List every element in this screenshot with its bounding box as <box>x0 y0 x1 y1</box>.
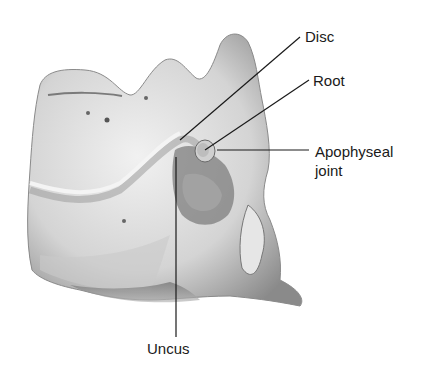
label-uncus: Uncus <box>147 340 190 357</box>
label-apophyseal: Apophyseal <box>315 143 393 160</box>
label-joint: joint <box>315 162 343 179</box>
label-disc: Disc <box>305 28 334 45</box>
label-root: Root <box>313 72 345 89</box>
vertebra-illustration <box>0 0 446 370</box>
anatomy-figure: Disc Root Apophyseal joint Uncus <box>0 0 446 370</box>
